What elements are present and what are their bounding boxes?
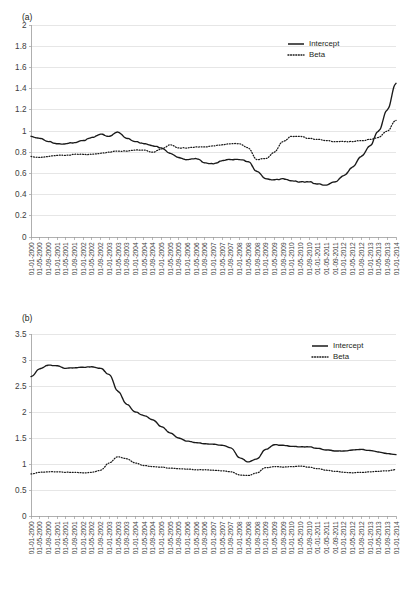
x-axis-tick-label: 01-01-2000 (28, 521, 35, 554)
x-axis-tick-label: 01-05-2010 (297, 521, 304, 554)
x-axis-tick-label: 01-01-2014 (393, 242, 400, 275)
y-axis-tick-label: 0.5 (15, 486, 27, 495)
x-axis-tick-label: 01-09-2009 (280, 521, 287, 554)
y-axis-tick-label: 0 (22, 233, 27, 242)
x-axis-tick-label: 01-05-2004 (141, 242, 148, 275)
x-axis-tick-label: 01-05-2001 (62, 521, 69, 554)
x-axis-tick-label: 01-05-2003 (115, 242, 122, 275)
x-axis-tick-label: 01-09-2000 (45, 521, 52, 554)
x-axis-tick-label: 01-05-2012 (349, 242, 356, 275)
x-axis-tick-label: 01-09-2012 (358, 521, 365, 554)
x-axis-tick-label: 01-05-2012 (349, 521, 356, 554)
x-axis-tick-label: 01-05-2006 (193, 521, 200, 554)
y-axis-tick-label: 1.5 (15, 434, 27, 443)
x-axis-tick-label: 01-09-2010 (306, 521, 313, 554)
x-axis-tick-label: 01-01-2011 (314, 242, 321, 275)
x-axis-tick-label: 01-09-2010 (306, 242, 313, 275)
y-axis-tick-label: 0.4 (15, 190, 27, 199)
x-axis-tick-label: 01-01-2005 (158, 242, 165, 275)
legend-item-beta: Beta (309, 50, 326, 59)
x-axis-tick-label: 01-09-2005 (175, 521, 182, 554)
y-axis-tick-label: 3.5 (15, 330, 27, 339)
x-axis-tick-label: 01-09-2001 (71, 242, 78, 275)
y-axis-tick-label: 0 (22, 512, 27, 521)
x-axis-tick-label: 01-05-2010 (297, 242, 304, 275)
x-axis-tick-label: 01-05-2002 (88, 521, 95, 554)
x-axis-tick-label: 01-09-2009 (280, 242, 287, 275)
x-axis-tick-label: 01-05-2001 (62, 242, 69, 275)
x-axis-tick-label: 01-01-2007 (210, 521, 217, 554)
x-axis-tick-label: 01-05-2008 (245, 521, 252, 554)
series-line-intercept (31, 365, 396, 462)
x-axis-tick-label: 01-01-2004 (132, 521, 139, 554)
x-axis-tick-label: 01-09-2013 (384, 242, 391, 275)
y-axis-tick-label: 2.5 (15, 382, 27, 391)
y-axis-tick-label: 0.6 (15, 169, 27, 178)
y-axis-tick-label: 1 (22, 460, 27, 469)
x-axis-tick-label: 01-09-2005 (175, 242, 182, 275)
y-axis-tick-label: 1.6 (15, 63, 27, 72)
series-line-beta (31, 457, 396, 476)
x-axis-tick-label: 01-01-2003 (106, 242, 113, 275)
x-axis-tick-label: 01-09-2007 (227, 521, 234, 554)
x-axis-tick-label: 01-09-2002 (97, 242, 104, 275)
y-axis-tick-label: 1.2 (15, 105, 27, 114)
x-axis-tick-label: 01-01-2006 (184, 521, 191, 554)
x-axis-tick-label: 01-01-2008 (236, 521, 243, 554)
x-axis-tick-label: 01-01-2001 (54, 242, 61, 275)
x-axis-tick-label: 01-05-2007 (219, 242, 226, 275)
x-axis-tick-label: 01-09-2013 (384, 521, 391, 554)
x-axis-tick-label: 01-01-2010 (288, 521, 295, 554)
x-axis-tick-label: 01-09-2003 (123, 521, 130, 554)
x-axis-tick-label: 01-09-2007 (227, 242, 234, 275)
x-axis-tick-label: 01-09-2004 (149, 521, 156, 554)
x-axis-tick-label: 01-01-2009 (262, 242, 269, 275)
legend-item-beta: Beta (333, 352, 350, 361)
x-axis-tick-label: 01-05-2011 (323, 521, 330, 554)
x-axis-tick-label: 01-01-2013 (367, 242, 374, 275)
y-axis-tick-label: 1.8 (15, 42, 27, 51)
x-axis-tick-label: 01-01-2006 (184, 242, 191, 275)
x-axis-tick-label: 01-01-2000 (28, 242, 35, 275)
x-axis-tick-label: 01-09-2011 (332, 521, 339, 554)
x-axis-tick-label: 01-05-2000 (36, 242, 43, 275)
y-axis-tick-label: 3 (22, 356, 27, 365)
x-axis-tick-label: 01-01-2012 (340, 521, 347, 554)
legend-item-intercept: Intercept (309, 39, 340, 48)
legend-item-intercept: Intercept (333, 341, 364, 350)
x-axis-tick-label: 01-09-2001 (71, 521, 78, 554)
x-axis-tick-label: 01-01-2007 (210, 242, 217, 275)
x-axis-tick-label: 01-09-2002 (97, 521, 104, 554)
x-axis-tick-label: 01-05-2005 (167, 242, 174, 275)
x-axis-tick-label: 01-05-2002 (88, 242, 95, 275)
x-axis-tick-label: 01-05-2007 (219, 521, 226, 554)
x-axis-tick-label: 01-09-2006 (201, 521, 208, 554)
x-axis-tick-label: 01-05-2013 (375, 242, 382, 275)
x-axis-tick-label: 01-05-2008 (245, 242, 252, 275)
x-axis-tick-label: 01-09-2006 (201, 242, 208, 275)
y-axis-tick-label: 2 (22, 21, 27, 30)
x-axis-tick-label: 01-01-2004 (132, 242, 139, 275)
x-axis-tick-label: 01-01-2002 (80, 521, 87, 554)
x-axis-tick-label: 01-05-2013 (375, 521, 382, 554)
x-axis-tick-label: 01-05-2003 (115, 521, 122, 554)
chart-panel-b: (b) 00.511.522.533.501-01-200001-05-2000… (0, 301, 406, 602)
x-axis-tick-label: 01-01-2012 (340, 242, 347, 275)
x-axis-tick-label: 01-09-2003 (123, 242, 130, 275)
x-axis-tick-label: 01-01-2003 (106, 521, 113, 554)
x-axis-tick-label: 01-01-2011 (314, 521, 321, 554)
x-axis-tick-label: 01-01-2001 (54, 521, 61, 554)
x-axis-tick-label: 01-09-2008 (254, 242, 261, 275)
x-axis-tick-label: 01-01-2010 (288, 242, 295, 275)
x-axis-tick-label: 01-01-2009 (262, 521, 269, 554)
chart-b-svg: 00.511.522.533.501-01-200001-05-200001-0… (0, 301, 406, 602)
x-axis-tick-label: 01-09-2000 (45, 242, 52, 275)
x-axis-tick-label: 01-09-2012 (358, 242, 365, 275)
x-axis-tick-label: 01-01-2002 (80, 242, 87, 275)
x-axis-tick-label: 01-05-2009 (271, 521, 278, 554)
x-axis-tick-label: 01-05-2004 (141, 521, 148, 554)
x-axis-tick-label: 01-01-2013 (367, 521, 374, 554)
x-axis-tick-label: 01-05-2005 (167, 521, 174, 554)
x-axis-tick-label: 01-09-2011 (332, 242, 339, 275)
x-axis-tick-label: 01-05-2006 (193, 242, 200, 275)
